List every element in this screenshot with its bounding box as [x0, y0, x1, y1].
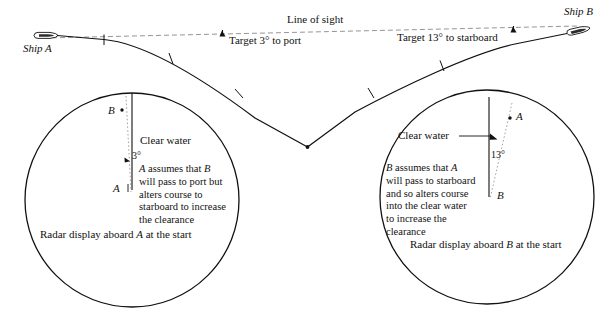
course-arrow-icon-right: [490, 134, 498, 140]
radar-left-note-line-4: starboard to increase: [139, 201, 226, 214]
radar-right-angle-label: 13°: [491, 149, 505, 161]
track-tick-a-3: [235, 89, 243, 98]
radar-right-target-label: A: [516, 110, 523, 123]
radar-left-caption: Radar display aboard A at the start: [40, 228, 192, 241]
radar-left-note-line-5: the clearance: [139, 214, 226, 227]
ship-a-track: [57, 36, 308, 148]
radar-right-note-line-1: B assumes that A: [386, 162, 476, 175]
radar-left-clear-water-label: Clear water: [140, 134, 191, 147]
radar-right-note-line-6: clearance: [386, 226, 476, 239]
ship-a-label: Ship A: [23, 42, 52, 55]
nautical-diagram: Line of sight Ship A Ship B Target 3° to…: [0, 0, 614, 313]
radar-right-caption: Radar display aboard B at the start: [410, 238, 562, 251]
radar-right-target-blip: [508, 116, 511, 119]
target-port-label: Target 3° to port: [229, 34, 301, 47]
radar-left-note: A assumes that B will pass to port but a…: [139, 163, 226, 227]
track-tick-b-2: [368, 88, 374, 98]
ship-hull-icon-b: [567, 27, 590, 36]
radar-left-note-line-3: alters course to: [139, 189, 226, 202]
target-starboard-label: Target 13° to starboard: [397, 31, 498, 44]
radar-right-note-line-2: will pass to starboard: [386, 175, 476, 188]
diagram-canvas: [0, 0, 614, 313]
closest-approach-point: [306, 145, 310, 149]
radar-left-own-ship-label: A: [113, 182, 120, 195]
radar-right-clear-water-label: Clear water: [398, 129, 449, 142]
radar-left-target-label: B: [108, 104, 115, 117]
radar-right-note-line-4: into the clear water: [386, 200, 476, 213]
radar-left-target-blip: [120, 108, 123, 111]
line-of-sight-label: Line of sight: [287, 13, 343, 26]
radar-right-own-ship-label: B: [497, 189, 504, 202]
ship-hull-icon-a: [34, 32, 58, 38]
radar-right-note-line-3: and so alters course: [386, 188, 476, 201]
radar-right-note-line-5: to increase the: [386, 213, 476, 226]
arrowhead-icon-starboard: [511, 26, 517, 33]
radar-left-angle-label: 3°: [132, 150, 141, 162]
radar-left-relative-motion-line: [126, 96, 131, 192]
radar-right-note: B assumes that A will pass to starboard …: [386, 162, 476, 239]
radar-left-note-line-2: will pass to port but: [139, 176, 226, 189]
ship-b-label: Ship B: [564, 5, 593, 18]
radar-left-note-line-1: A assumes that B: [139, 163, 226, 176]
arrowhead-icon-port: [220, 30, 226, 37]
